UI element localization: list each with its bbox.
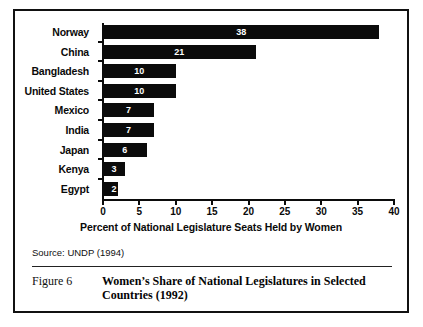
x-axis-tick xyxy=(102,201,104,205)
x-axis-tick-label: 10 xyxy=(163,206,189,217)
bar-track: 21 xyxy=(103,45,407,59)
bar-row: India7 xyxy=(15,121,407,139)
x-axis-tick xyxy=(357,201,359,205)
x-axis-tick xyxy=(138,201,140,205)
bar-row: Kenya3 xyxy=(15,160,407,178)
bar-value-label: 2 xyxy=(104,182,124,196)
x-axis-tick-label: 35 xyxy=(345,206,371,217)
x-axis-tick xyxy=(393,201,395,205)
bar-track: 10 xyxy=(103,64,407,78)
x-axis-tick xyxy=(248,201,250,205)
bar-track: 38 xyxy=(103,25,407,39)
bar-row: Norway38 xyxy=(15,23,407,41)
category-label: China xyxy=(15,43,89,61)
figure-panel: Norway38China21Bangladesh10United States… xyxy=(13,9,409,313)
x-axis-title: Percent of National Legislature Seats He… xyxy=(15,221,407,233)
category-label: Norway xyxy=(15,23,89,41)
y-axis-tick xyxy=(98,41,103,43)
bar-chart: Norway38China21Bangladesh10United States… xyxy=(15,11,407,243)
bar-track: 3 xyxy=(103,162,407,176)
category-label: India xyxy=(15,121,89,139)
bar-row: Egypt2 xyxy=(15,180,407,198)
bar-row: Bangladesh10 xyxy=(15,62,407,80)
source-note: Source: UNDP (1994) xyxy=(32,247,124,258)
x-axis-tick xyxy=(320,201,322,205)
x-axis-tick-label: 15 xyxy=(199,206,225,217)
y-axis-tick xyxy=(98,99,103,101)
bar-row: China21 xyxy=(15,43,407,61)
bar-value-label: 10 xyxy=(129,84,149,98)
bar-row: Mexico7 xyxy=(15,101,407,119)
figure-title: Women’s Share of National Legislatures i… xyxy=(102,274,392,302)
y-axis-tick xyxy=(98,178,103,180)
x-axis-tick xyxy=(211,201,213,205)
y-axis-tick xyxy=(98,80,103,82)
bar-value-label: 7 xyxy=(118,103,138,117)
bar-value-label: 10 xyxy=(129,64,149,78)
y-axis-tick xyxy=(98,60,103,62)
x-axis-tick xyxy=(175,201,177,205)
x-axis-tick-label: 0 xyxy=(90,206,116,217)
category-label: Bangladesh xyxy=(15,62,89,80)
y-axis-tick xyxy=(98,139,103,141)
category-label: United States xyxy=(15,82,89,100)
x-axis-tick-label: 25 xyxy=(272,206,298,217)
bar-track: 2 xyxy=(103,182,407,196)
category-label: Egypt xyxy=(15,180,89,198)
figure-number: Figure 6 xyxy=(32,274,72,289)
x-axis-tick xyxy=(284,201,286,205)
x-axis-tick-label: 5 xyxy=(126,206,152,217)
bar-row: United States10 xyxy=(15,82,407,100)
category-label: Mexico xyxy=(15,101,89,119)
bar-value-label: 6 xyxy=(115,143,135,157)
y-axis-tick xyxy=(98,119,103,121)
bar-track: 6 xyxy=(103,143,407,157)
bar-track: 7 xyxy=(103,103,407,117)
y-axis-tick xyxy=(98,158,103,160)
caption-divider xyxy=(32,266,392,267)
category-label: Japan xyxy=(15,141,89,159)
bar-value-label: 3 xyxy=(104,162,124,176)
bar-value-label: 21 xyxy=(169,45,189,59)
x-axis-tick-label: 40 xyxy=(381,206,407,217)
bar-row: Japan6 xyxy=(15,141,407,159)
category-label: Kenya xyxy=(15,160,89,178)
bar-track: 10 xyxy=(103,84,407,98)
x-axis-tick-label: 20 xyxy=(236,206,262,217)
bar-track: 7 xyxy=(103,123,407,137)
x-axis-tick-label: 30 xyxy=(308,206,334,217)
bar-value-label: 38 xyxy=(231,25,251,39)
bar-value-label: 7 xyxy=(118,123,138,137)
